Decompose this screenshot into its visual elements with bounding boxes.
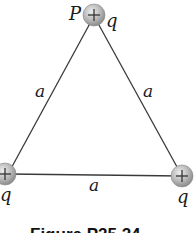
triangle-charge-diagram: a a a P q q q Figure P25.24 — [0, 0, 195, 233]
side-bottom-label: a — [89, 175, 99, 195]
side-left — [8, 16, 94, 174]
point-p-label: P — [68, 3, 82, 24]
charge-bottom-left — [0, 163, 16, 185]
charge-bottom-left-label: q — [0, 184, 12, 205]
side-right-label: a — [143, 81, 153, 101]
charge-top-label: q — [106, 10, 118, 31]
charge-bottom-right — [171, 165, 193, 187]
charge-top — [83, 4, 105, 26]
side-right — [94, 16, 182, 176]
charge-bottom-right-label: q — [177, 186, 189, 207]
side-left-label: a — [35, 81, 45, 101]
figure-caption: Figure P25.24 — [30, 225, 141, 233]
